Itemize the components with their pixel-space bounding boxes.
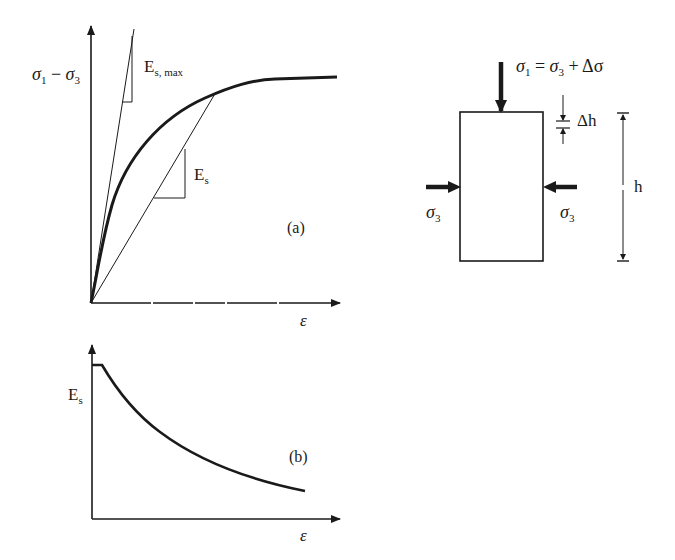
- panel-a-y-axis-label: σ1 − σ3: [32, 64, 80, 86]
- delta-h-label: Δh: [577, 111, 597, 130]
- es-label: Es: [194, 165, 209, 186]
- right-confining-stress-label: σ3: [560, 202, 575, 224]
- panel-b-x-axis-label: ε: [300, 526, 307, 545]
- panel-a-stress-strain-plot: σ1 − σ3 Es, max Es (a) ε: [32, 26, 340, 330]
- delta-h-dimension: [556, 95, 570, 144]
- panel-a-tag: (a): [287, 219, 305, 237]
- stress-strain-curve: [91, 77, 337, 303]
- left-confining-arrowhead: [448, 181, 461, 193]
- axial-load-arrowhead: [495, 100, 507, 113]
- axial-stress-label: σ1 = σ3 + Δσ: [516, 56, 604, 78]
- panel-b-modulus-strain-plot: Es (b) ε: [68, 345, 340, 545]
- left-confining-stress-label: σ3: [426, 202, 441, 224]
- specimen-body: [460, 112, 543, 261]
- panel-b-tag: (b): [289, 448, 308, 466]
- es-max-label: Es, max: [144, 57, 184, 78]
- triaxial-specimen: σ1 = σ3 + Δσ Δh h σ3 σ3: [426, 56, 643, 261]
- es-max-slope-triangle: [122, 36, 132, 102]
- secant-line: [91, 92, 216, 303]
- es-slope-triangle: [154, 149, 185, 198]
- right-confining-arrowhead: [543, 181, 556, 193]
- panel-a-x-axis-label: ε: [300, 311, 307, 330]
- panel-b-y-axis-label: Es: [68, 385, 83, 406]
- height-label: h: [634, 177, 643, 196]
- secant-modulus-curve: [92, 365, 305, 491]
- height-dimension: [617, 113, 629, 261]
- triaxial-diagram: σ1 − σ3 Es, max Es (a) ε Es (b) ε: [0, 0, 675, 560]
